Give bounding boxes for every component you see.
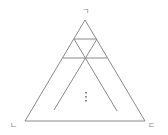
vertical-ellipsis — [85, 92, 87, 102]
ellipsis-dot — [85, 100, 87, 102]
vertex-label-bottom-right: ㄷ — [148, 121, 155, 130]
vertex-label-bottom-left: ㄴ — [10, 121, 17, 130]
ellipsis-dot — [85, 96, 87, 98]
outer-triangle — [25, 20, 145, 121]
inner-line-left-descending — [54, 39, 97, 110]
triangle-diagram: ㄱ ㄴ ㄷ — [0, 0, 168, 135]
vertex-label-top: ㄱ — [82, 7, 89, 16]
inner-line-right-descending — [74, 39, 117, 111]
ellipsis-dot — [85, 92, 87, 94]
